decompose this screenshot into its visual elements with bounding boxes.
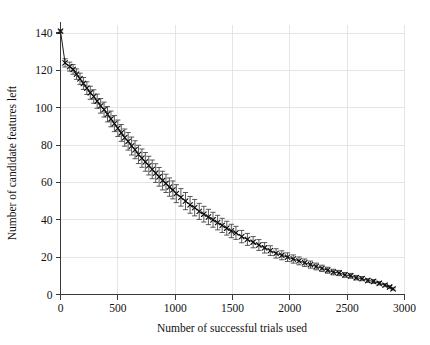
chart-figure: 0500100015002000250030000204060801001201… [0, 0, 430, 345]
x-tick-label: 500 [109, 302, 127, 314]
x-tick-label: 1000 [164, 302, 187, 314]
y-tick-label: 40 [41, 214, 53, 226]
figure-background [0, 0, 430, 345]
y-tick-label: 60 [41, 176, 53, 188]
y-axis-label: Number of candidate features left [6, 85, 18, 240]
y-tick-label: 120 [35, 64, 53, 76]
y-tick-label: 140 [35, 27, 53, 39]
x-tick-label: 2000 [278, 302, 301, 314]
x-tick-label: 0 [58, 302, 64, 314]
x-tick-label: 3000 [393, 302, 416, 314]
x-tick-label: 1500 [221, 302, 244, 314]
y-tick-label: 100 [35, 102, 53, 114]
x-tick-label: 2500 [336, 302, 359, 314]
y-tick-label: 20 [41, 251, 53, 263]
x-axis-label: Number of successful trials used [157, 322, 307, 334]
y-tick-label: 80 [41, 139, 53, 151]
y-tick-label: 0 [47, 289, 53, 301]
decay-line-chart: 0500100015002000250030000204060801001201… [0, 0, 430, 345]
